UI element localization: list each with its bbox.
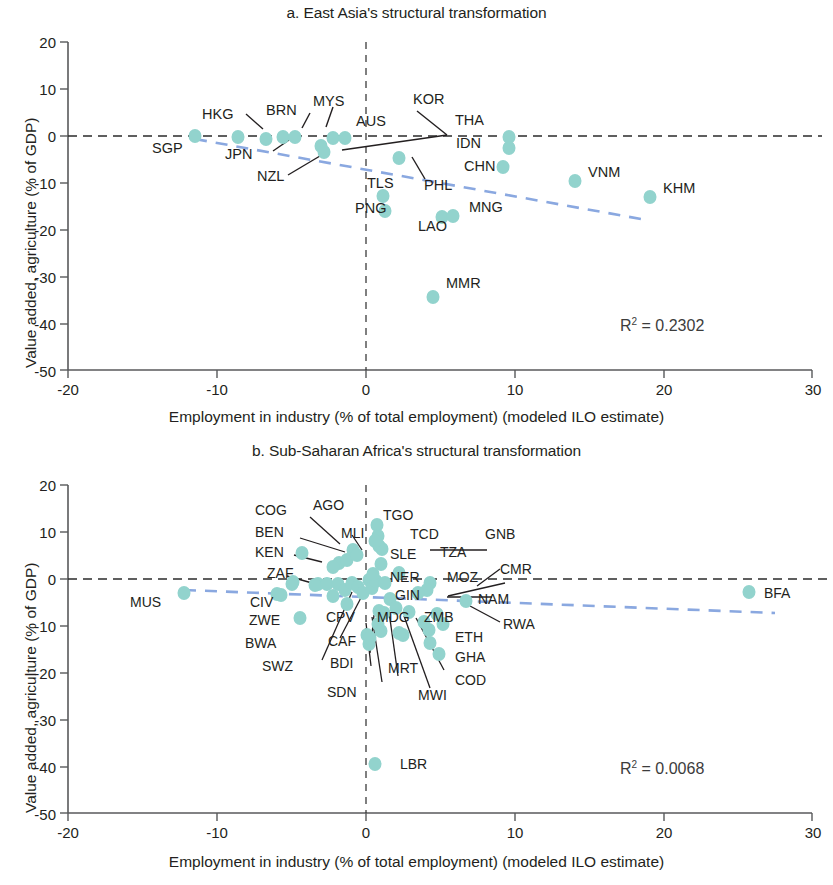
panel-a-label-JPN: JPN bbox=[225, 147, 252, 162]
panel-a-label-AUS: AUS bbox=[356, 114, 386, 129]
panel-b-label-COD: COD bbox=[455, 673, 486, 687]
panel-a-label-KHM: KHM bbox=[663, 181, 695, 196]
panel-b-label-MRT: MRT bbox=[388, 661, 418, 675]
panel-b-label-ETH: ETH bbox=[455, 630, 483, 644]
panel-a-label-TLS: TLS bbox=[367, 176, 394, 191]
chart-panel-a: a. East Asia's structural transformation… bbox=[0, 0, 833, 440]
panel-b-label-TGO: TGO bbox=[383, 508, 413, 522]
panel-b-label-BWA: BWA bbox=[245, 636, 276, 650]
panel-b-label-COG: COG bbox=[255, 503, 287, 517]
panel-a-label-CHN: CHN bbox=[464, 159, 495, 174]
panel-b-label-NER: NER bbox=[390, 570, 420, 584]
panel-b-label-BEN: BEN bbox=[255, 525, 284, 539]
panel-b-label-BFA: BFA bbox=[764, 586, 790, 600]
panel-b-label-BDI: BDI bbox=[330, 656, 353, 670]
panel-b-label-TZA: TZA bbox=[440, 545, 466, 559]
panel-b-label-MOZ: MOZ bbox=[447, 570, 478, 584]
panel-b-label-RWA: RWA bbox=[503, 617, 535, 631]
panel-a-label-VNM: VNM bbox=[588, 165, 620, 180]
panel-a-data-points bbox=[189, 129, 657, 304]
panel-a-label-SGP: SGP bbox=[152, 141, 183, 156]
panel-a-label-NZL: NZL bbox=[257, 169, 284, 184]
panel-b-label-CMR: CMR bbox=[500, 562, 532, 576]
panel-b-label-SWZ: SWZ bbox=[262, 659, 293, 673]
panel-b-label-KEN: KEN bbox=[255, 545, 284, 559]
panel-a-label-IDN: IDN bbox=[456, 136, 481, 151]
panel-a-label-THA: THA bbox=[455, 113, 484, 128]
panel-a-label-MNG: MNG bbox=[469, 200, 503, 215]
panel-b-label-GHA: GHA bbox=[455, 650, 485, 664]
panel-b-label-CAF: CAF bbox=[328, 634, 356, 648]
panel-a-label-HKG: HKG bbox=[202, 107, 233, 122]
panel-b-label-CPV: CPV bbox=[326, 610, 355, 624]
panel-a-label-LAO: LAO bbox=[418, 219, 447, 234]
panel-a-label-BRN: BRN bbox=[266, 103, 297, 118]
panel-b-label-CIV: CIV bbox=[250, 595, 273, 609]
panel-b-label-MUS: MUS bbox=[130, 595, 161, 609]
panel-a-label-MMR: MMR bbox=[446, 276, 481, 291]
panel-a-label-PNG: PNG bbox=[355, 201, 386, 216]
panel-b-label-ZMB: ZMB bbox=[424, 610, 454, 624]
panel-a-label-MYS: MYS bbox=[313, 94, 344, 109]
panel-a-plot-area bbox=[0, 0, 833, 440]
panel-b-label-GNB: GNB bbox=[485, 527, 515, 541]
panel-b-label-TCD: TCD bbox=[410, 527, 439, 541]
panel-b-label-ZAF: ZAF bbox=[267, 566, 293, 580]
panel-a-label-PHL: PHL bbox=[424, 178, 452, 193]
panel-b-label-MLI: MLI bbox=[341, 526, 364, 540]
panel-a-label-KOR: KOR bbox=[413, 92, 444, 107]
panel-b-label-ZWE: ZWE bbox=[249, 613, 280, 627]
panel-b-label-MWI: MWI bbox=[418, 688, 447, 702]
panel-b-label-AGO: AGO bbox=[313, 498, 344, 512]
chart-panel-b: b. Sub-Saharan Africa's structural trans… bbox=[0, 440, 833, 885]
panel-b-label-NAM: NAM bbox=[478, 592, 509, 606]
panel-b-label-MDG: MDG bbox=[377, 610, 410, 624]
panel-b-label-LBR: LBR bbox=[400, 757, 427, 771]
panel-b-label-SDN: SDN bbox=[327, 685, 357, 699]
panel-b-label-GIN: GIN bbox=[395, 588, 420, 602]
figure-root: a. East Asia's structural transformation… bbox=[0, 0, 833, 885]
panel-b-label-SLE: SLE bbox=[390, 547, 416, 561]
